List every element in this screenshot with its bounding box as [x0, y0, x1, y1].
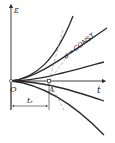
origin-label: O: [10, 85, 17, 94]
curve-steep-down: [11, 81, 104, 135]
origin-point: [10, 80, 13, 83]
y-axis-label: ε: [14, 5, 19, 15]
point-a-label: A: [48, 86, 54, 94]
x-axis-label: t: [97, 85, 101, 95]
curve-steep-up: [11, 16, 73, 81]
tr-label: tᵣ: [27, 96, 33, 105]
strain-time-diagram: ε t O A tᵣ σ̇ = CONST.: [0, 0, 115, 143]
point-a-marker: [48, 80, 51, 83]
const-stress-rate-label: σ̇ = CONST.: [62, 31, 96, 60]
